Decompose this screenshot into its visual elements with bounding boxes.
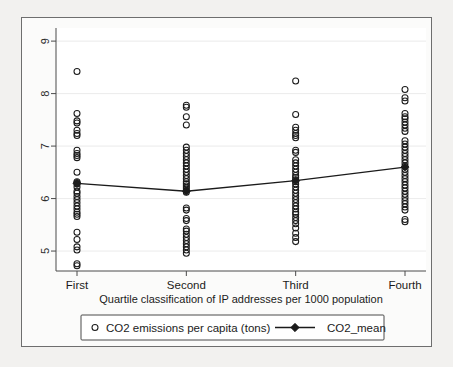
legend-label-mean: CO2_mean [327,322,386,334]
plot-area-background [56,28,426,271]
x-axis-tick-label: Third [283,279,309,291]
y-axis-tick-label: 7 [39,143,51,149]
y-axis-label-group: 56789 [39,38,51,254]
y-axis-tick-group [51,41,56,251]
chart-figure: 56789 FirstSecondThirdFourth Quartile cl… [21,17,432,347]
legend-label-scatter: CO2 emissions per capita (tons) [106,322,270,334]
x-axis-tick-group [77,271,405,276]
x-axis-tick-label: First [66,279,89,291]
x-axis-label-group: FirstSecondThirdFourth [66,279,422,291]
y-axis-tick-label: 6 [39,196,51,202]
y-axis-tick-label: 5 [39,248,51,254]
y-axis-tick-label: 9 [39,38,51,44]
scatter-plot: 56789 FirstSecondThirdFourth Quartile cl… [22,18,433,348]
x-axis-tick-label: Fourth [388,279,421,291]
chart-legend: CO2 emissions per capita (tons) CO2_mean [81,315,386,340]
y-axis-tick-label: 8 [39,91,51,97]
x-axis-tick-label: Second [167,279,206,291]
x-axis-title: Quartile classification of IP addresses … [99,293,383,305]
